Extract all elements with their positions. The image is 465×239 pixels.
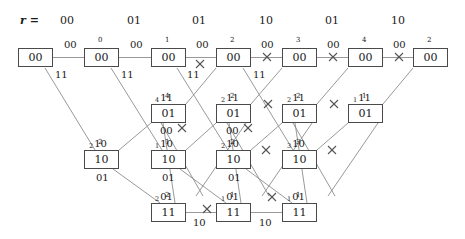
edge-label: 00 [160, 126, 173, 136]
edge-label-subscript: 2 [287, 96, 292, 104]
edge-s4_2-s5_1 [317, 123, 348, 150]
edge-label: 101 [221, 192, 239, 202]
edge-s2_2-s3_1 [186, 123, 216, 150]
trellis-node-s4_2[interactable]: 10 [282, 150, 317, 169]
trellis-node-s2_1[interactable]: 01 [151, 104, 186, 123]
edge-s5_1-s6_0 [383, 68, 413, 104]
edge-label-text: 01 [292, 191, 305, 202]
edge-label-subscript: 2 [89, 142, 94, 150]
edge-label-text: 11 [226, 92, 239, 103]
edge-label-text: 01 [162, 172, 175, 183]
trellis-node-s4_1[interactable]: 01 [282, 104, 317, 123]
trellis-node-s3_2[interactable]: 10 [216, 150, 251, 169]
edge-label: 10 [193, 218, 206, 228]
edge-label-text: 11 [121, 69, 134, 80]
edge-label-text: 00 [327, 39, 340, 50]
edge-label-text: 10 [259, 217, 272, 228]
edge-label: 10 [259, 218, 272, 228]
edge-label-text: 11 [292, 92, 305, 103]
trellis-node-s6_0[interactable]: 00 [413, 48, 448, 67]
edge-label: 201 [155, 192, 173, 202]
edge-group-11-to-01 [163, 123, 378, 203]
edge-label-text: 11 [160, 92, 173, 103]
edge-label: 411 [155, 93, 173, 103]
edge-label: 11 [121, 70, 134, 80]
node-metric-s5_0: 4 [362, 37, 366, 44]
edge-label: 210 [221, 139, 239, 149]
pruned-marker-group [178, 53, 403, 213]
header-value-2: 01 [192, 15, 206, 26]
edge-label: 310 [287, 139, 305, 149]
edge-s1_2-s2_3 [113, 169, 160, 203]
node-metric-s2_0: 1 [165, 37, 169, 44]
node-metric-s3_0: 2 [230, 37, 234, 44]
edge-label-subscript: 2 [155, 195, 160, 203]
edge-label-text: 00 [226, 125, 239, 136]
edge-label: 101 [287, 192, 305, 202]
edge-s4_1-s5_0 [317, 68, 348, 104]
header-value-3: 10 [259, 15, 273, 26]
pruned-x-row11-2 [268, 193, 276, 201]
edge-label-text: 00 [261, 39, 274, 50]
edge-label: 111 [353, 93, 371, 103]
header-r-label: r = [20, 15, 39, 26]
pruned-x-row01-1 [178, 124, 186, 132]
trellis-node-s3_1[interactable]: 01 [216, 104, 251, 123]
edge-label: 01 [162, 173, 175, 183]
edge-label: 210 [89, 139, 107, 149]
edge-label-text: 11 [55, 69, 68, 80]
edge-label: 00 [327, 40, 340, 50]
edge-label-text: 11 [187, 69, 200, 80]
edge-label-subscript: 3 [287, 142, 292, 150]
edge-label-text: 01 [228, 172, 241, 183]
header-value-0: 00 [60, 15, 74, 26]
edge-label-text: 00 [130, 39, 143, 50]
trellis-node-s4_3[interactable]: 11 [282, 203, 317, 222]
edge-label-text: 00 [196, 39, 209, 50]
pruned-x-row10-2 [328, 146, 336, 154]
trellis-node-s2_3[interactable]: 11 [151, 203, 186, 222]
pruned-x-row10-1 [262, 146, 270, 154]
trellis-node-s4_0[interactable]: 00 [282, 48, 317, 67]
trellis-node-s3_0[interactable]: 00 [216, 48, 251, 67]
edge-label-subscript: 2 [221, 96, 226, 104]
trellis-node-s3_3[interactable]: 11 [216, 203, 251, 222]
edge-label: 01 [96, 173, 109, 183]
pruned-x-row01-3 [244, 124, 252, 132]
edge-s1_2-s2_1 [119, 123, 151, 150]
edge-label: 00 [393, 40, 406, 50]
edge-s0_0-s1_2 [45, 68, 95, 150]
node-metric-s1_0: 0 [98, 37, 102, 44]
edge-label-text: 00 [160, 125, 173, 136]
edge-label: 211 [221, 93, 239, 103]
edge-label: 211 [287, 93, 305, 103]
edge-label-subscript: 1 [155, 142, 160, 150]
pruned-x-row01-2 [196, 60, 204, 68]
trellis-node-s5_1[interactable]: 01 [348, 104, 383, 123]
edge-label-text: 10 [292, 138, 305, 149]
pruned-x-top-1 [263, 53, 271, 61]
pruned-x-row11-1 [203, 205, 211, 213]
edge-label: 00 [64, 40, 77, 50]
edge-label-text: 01 [160, 191, 173, 202]
edge-s3_2-s4_1 [251, 123, 282, 150]
edge-label: 11 [187, 70, 200, 80]
header-value-1: 01 [127, 15, 141, 26]
edge-label-text: 11 [253, 69, 266, 80]
trellis-node-s0_0[interactable]: 00 [18, 48, 53, 67]
trellis-node-s5_0[interactable]: 00 [348, 48, 383, 67]
edge-label-text: 01 [226, 191, 239, 202]
edge-label-text: 10 [193, 217, 206, 228]
edge-label-text: 00 [393, 39, 406, 50]
edge-label-text: 11 [358, 92, 371, 103]
trellis-node-s1_0[interactable]: 00 [84, 48, 119, 67]
trellis-node-s2_0[interactable]: 00 [151, 48, 186, 67]
trellis-node-s2_2[interactable]: 10 [151, 150, 186, 169]
edge-label-text: 10 [226, 138, 239, 149]
edge-label: 11 [253, 70, 266, 80]
node-metric-s6_0: 2 [427, 37, 431, 44]
edge-label-subscript: 1 [287, 195, 292, 203]
trellis-node-s1_2[interactable]: 10 [84, 150, 119, 169]
edge-label: 01 [228, 173, 241, 183]
edge-label-text: 01 [96, 172, 109, 183]
